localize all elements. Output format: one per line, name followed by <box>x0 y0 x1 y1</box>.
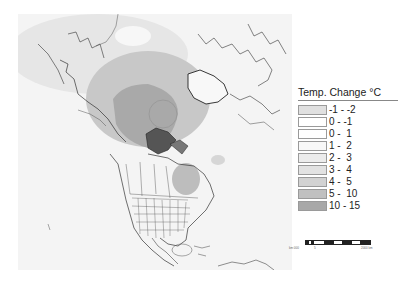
legend-swatch <box>298 189 327 199</box>
legend-item: 0 - -1 <box>298 116 398 128</box>
legend-swatch <box>298 105 327 115</box>
legend-swatch <box>298 141 327 151</box>
legend-item: 2 - 3 <box>298 152 398 164</box>
legend-title: Temp. Change °C <box>298 86 398 101</box>
scale-bar-right-label: 2000 km <box>361 246 373 250</box>
legend-label: 3 - 4 <box>329 165 352 175</box>
legend-item: 10 - 15 <box>298 200 398 212</box>
legend: Temp. Change °C -1 - -2 0 - -1 0 - 1 1 -… <box>298 86 398 212</box>
legend-label: 2 - 3 <box>329 153 352 163</box>
legend-swatch <box>298 117 327 127</box>
legend-label: 5 - 10 <box>329 189 357 199</box>
scale-bar: km 000 5 2000 km <box>305 240 371 252</box>
legend-item: 5 - 10 <box>298 188 398 200</box>
legend-label: 0 - -1 <box>329 117 352 127</box>
legend-label: 4 - 5 <box>329 177 352 187</box>
legend-swatch <box>298 201 327 211</box>
scale-bar-graphic <box>305 240 371 245</box>
legend-item: 4 - 5 <box>298 176 398 188</box>
legend-swatch <box>298 153 327 163</box>
legend-swatch <box>298 177 327 187</box>
legend-item: 1 - 2 <box>298 140 398 152</box>
legend-label: -1 - -2 <box>329 105 356 115</box>
legend-label: 1 - 2 <box>329 141 352 151</box>
map-canvas <box>18 14 292 270</box>
legend-item: 3 - 4 <box>298 164 398 176</box>
scale-bar-left-label: km 000 <box>289 246 299 250</box>
scale-bar-mid-label: 5 <box>314 246 316 250</box>
legend-label: 10 - 15 <box>329 201 360 211</box>
legend-item: -1 - -2 <box>298 104 398 116</box>
legend-swatch <box>298 165 327 175</box>
legend-label: 0 - 1 <box>329 129 352 139</box>
legend-swatch <box>298 129 327 139</box>
legend-item: 0 - 1 <box>298 128 398 140</box>
map-panel <box>18 14 292 270</box>
